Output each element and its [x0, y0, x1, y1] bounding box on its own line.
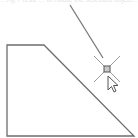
rotation-guide-line [70, 5, 103, 58]
drawing-surface[interactable] [0, 0, 138, 138]
snap-point-marker[interactable] [104, 66, 110, 72]
drawing-canvas[interactable]: …ny, Press … to rotate the selected obje… [0, 0, 138, 138]
